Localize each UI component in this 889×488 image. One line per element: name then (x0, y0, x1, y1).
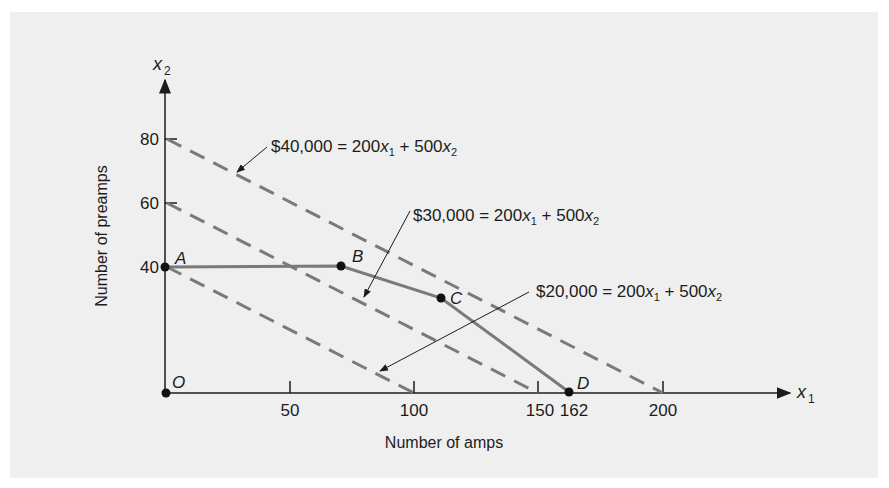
x-tick-label-200: 200 (649, 401, 677, 420)
x-axis-symbol: x 1 (796, 382, 815, 406)
lp-diagram: A B C D O 80 60 40 50 100 150 162 200 x … (0, 0, 889, 488)
x-tick-label-150: 150 (526, 401, 554, 420)
y-tick-label-60: 60 (140, 194, 159, 213)
point-d (565, 388, 574, 397)
equation-40000: $40,000 = 200x1 + 500x2 (271, 137, 457, 158)
leader-arrow-40000 (237, 147, 267, 172)
svg-text:x: x (796, 382, 807, 402)
label-o: O (172, 373, 185, 392)
y-axis-symbol: x 2 (152, 54, 171, 78)
iso-profit-line-30000 (167, 203, 538, 393)
equation-20000: $20,000 = 200x1 + 500x2 (536, 282, 722, 303)
point-b (337, 262, 346, 271)
iso-profit-line-20000 (167, 267, 414, 393)
label-d: D (577, 374, 589, 393)
label-a: A (174, 249, 186, 268)
point-o (162, 389, 171, 398)
x-tick-label-162: 162 (560, 401, 588, 420)
label-b: B (352, 247, 363, 266)
x-tick-label-50: 50 (281, 401, 300, 420)
y-tick-label-40: 40 (140, 258, 159, 277)
svg-text:x: x (152, 54, 163, 74)
feasible-boundary (165, 266, 569, 392)
leader-arrow-30000 (364, 211, 410, 297)
svg-text:$40,000 = 200x1 + 500x2: $40,000 = 200x1 + 500x2 (271, 137, 457, 158)
point-a (161, 263, 170, 272)
svg-text:$30,000 = 200x1 + 500x2: $30,000 = 200x1 + 500x2 (413, 206, 599, 227)
svg-text:2: 2 (164, 64, 171, 78)
point-c (437, 294, 446, 303)
y-tick-label-80: 80 (140, 130, 159, 149)
label-c: C (450, 289, 463, 308)
svg-text:1: 1 (808, 392, 815, 406)
x-tick-label-100: 100 (400, 401, 428, 420)
equation-30000: $30,000 = 200x1 + 500x2 (413, 206, 599, 227)
x-axis-label: Number of amps (385, 434, 503, 451)
y-axis-label: Number of preamps (93, 165, 110, 306)
svg-text:$20,000 = 200x1 + 500x2: $20,000 = 200x1 + 500x2 (536, 282, 722, 303)
